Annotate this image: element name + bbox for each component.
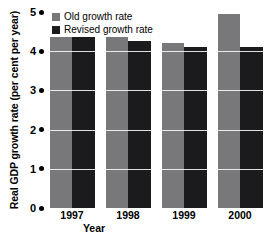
x-axis-tick-label: 1997: [44, 209, 101, 221]
y-axis-tick-label: 4: [30, 45, 36, 57]
y-axis-tick-label: 0: [30, 202, 36, 214]
y-axis-tick-label: 3: [30, 84, 36, 96]
x-axis-tick-label: 2000: [212, 209, 269, 221]
y-axis-tick: 5: [30, 6, 44, 18]
bar: [184, 47, 207, 208]
legend-item-label: Old growth rate: [64, 11, 132, 23]
plot-area: [44, 12, 268, 208]
bar-group: [218, 12, 263, 208]
bar-group: [50, 12, 95, 208]
y-axis-tick-label: 2: [30, 124, 36, 136]
black-square-swatch: [52, 26, 60, 34]
y-axis-tick-label: 5: [30, 6, 36, 18]
y-axis-tick: 2: [30, 124, 44, 136]
bar-chart: Real GDP growth rate (per cent per year)…: [0, 0, 272, 240]
legend-item-label: Revised growth rate: [64, 24, 153, 36]
bar-group: [106, 12, 151, 208]
legend-item: Revised growth rate: [52, 24, 153, 36]
bar: [240, 47, 263, 208]
bar: [162, 43, 185, 208]
legend-item: Old growth rate: [52, 11, 153, 23]
bar-group: [162, 12, 207, 208]
y-axis-ticks: 543210: [0, 0, 44, 240]
x-axis-tick-label: 1998: [100, 209, 157, 221]
x-axis-tick-label: 1999: [156, 209, 213, 221]
x-axis-title: Year: [44, 222, 144, 234]
y-axis-tick: 0: [30, 202, 44, 214]
y-axis-tick: 3: [30, 84, 44, 96]
bar: [106, 37, 129, 208]
legend: Old growth rateRevised growth rate: [52, 11, 153, 37]
bar: [218, 14, 241, 208]
bar: [72, 37, 95, 208]
bar: [128, 41, 151, 208]
bar: [50, 37, 73, 208]
y-axis-tick-label: 1: [30, 163, 36, 175]
y-axis-tick: 1: [30, 163, 44, 175]
y-axis-tick: 4: [30, 45, 44, 57]
gray-square-swatch: [52, 13, 60, 21]
